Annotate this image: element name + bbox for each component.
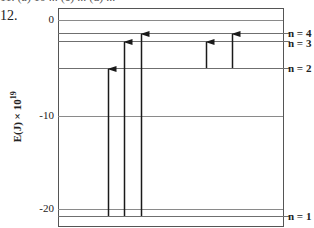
- level-label-n3: n = 3: [288, 38, 311, 49]
- level-label-n2: n = 2: [288, 63, 311, 74]
- energy-level-diagram: [0, 0, 314, 228]
- level-label-n1: n = 1: [288, 211, 311, 222]
